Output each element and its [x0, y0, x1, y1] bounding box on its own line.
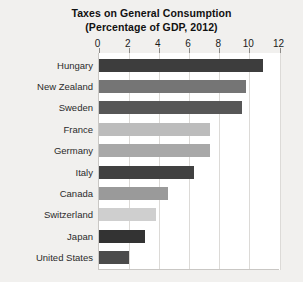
category-label-switzerland: Switzerland — [44, 208, 93, 221]
category-label-france: France — [63, 123, 93, 136]
bar-chart-figure: Taxes on General Consumption (Percentage… — [0, 0, 303, 282]
category-label-new-zealand: New Zealand — [37, 80, 93, 93]
bar-united-states — [99, 251, 129, 264]
x-tick-label-10: 10 — [243, 38, 254, 49]
bars-layer — [99, 53, 280, 270]
chart-subtitle: (Percentage of GDP, 2012) — [0, 20, 303, 34]
bar-italy — [99, 166, 194, 179]
bar-sweden — [99, 101, 242, 114]
x-tick-label-12: 12 — [273, 38, 284, 49]
x-axis-baseline — [98, 269, 279, 270]
bar-new-zealand — [99, 80, 247, 93]
bar-france — [99, 123, 211, 136]
bar-hungary — [99, 59, 263, 72]
category-label-canada: Canada — [60, 187, 93, 200]
chart-title-block: Taxes on General Consumption (Percentage… — [0, 6, 303, 34]
bar-japan — [99, 230, 146, 243]
category-label-sweden: Sweden — [59, 101, 93, 114]
plot-area — [98, 53, 280, 270]
gridline-12 — [280, 53, 281, 270]
category-label-united-states: United States — [36, 251, 93, 264]
category-label-italy: Italy — [76, 166, 93, 179]
category-label-germany: Germany — [54, 144, 93, 157]
bar-germany — [99, 144, 211, 157]
y-axis-category-labels: HungaryNew ZealandSwedenFranceGermanyIta… — [0, 53, 93, 270]
category-label-japan: Japan — [67, 230, 93, 243]
chart-title: Taxes on General Consumption — [0, 6, 303, 20]
x-tick-mark-12 — [280, 48, 281, 53]
bar-canada — [99, 187, 168, 200]
category-label-hungary: Hungary — [57, 59, 93, 72]
x-axis-tick-labels: 024681012 — [0, 38, 303, 51]
bar-switzerland — [99, 208, 156, 221]
